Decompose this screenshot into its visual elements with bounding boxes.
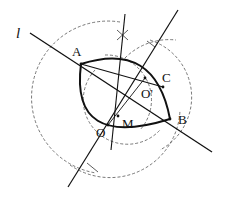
point-o [107,124,110,127]
label-c: C [162,70,171,85]
construction-arcs [32,21,192,178]
geometry-diagram: l A B C O' O M [0,0,225,207]
point-c [162,86,165,89]
point-a [80,63,83,66]
label-line-l: l [16,25,20,41]
dashed-arc-right [150,40,192,150]
point-o-prime [144,77,147,80]
label-m: M [122,116,134,131]
point-b [169,118,172,121]
point-m [117,115,120,118]
label-a: A [72,44,82,59]
label-b: B [178,112,187,127]
label-o: O [96,125,105,140]
label-o-prime: O' [141,86,153,101]
